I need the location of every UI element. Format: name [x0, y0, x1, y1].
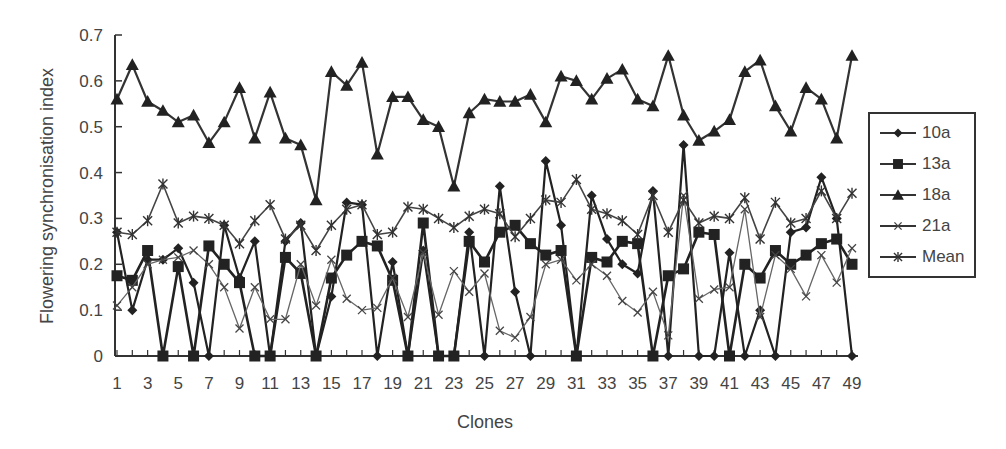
- data-point-10a: [709, 351, 719, 361]
- data-point-21a: [511, 334, 519, 342]
- data-point-18a: [677, 109, 690, 121]
- data-point-13a: [663, 270, 674, 281]
- data-point-18a: [830, 132, 843, 144]
- data-point-21a: [327, 256, 335, 264]
- data-point-13a: [219, 259, 230, 270]
- data-point-18a: [662, 49, 675, 61]
- data-point-10a: [786, 227, 796, 237]
- data-point-21a: [649, 288, 657, 296]
- data-point-21a: [236, 324, 244, 332]
- data-point-mean: [694, 218, 703, 229]
- data-point-10a: [556, 220, 566, 230]
- data-point-18a: [478, 93, 491, 105]
- x-tick-label: 41: [720, 374, 739, 393]
- data-point-13a: [647, 351, 658, 362]
- data-point-18a: [646, 100, 659, 112]
- data-point-13a: [448, 351, 459, 362]
- series-10a: [112, 140, 857, 361]
- data-point-mean: [266, 199, 275, 210]
- x-tick-label: 49: [843, 374, 862, 393]
- legend-item-10a: 10a: [878, 122, 973, 144]
- x-tick-label: 15: [322, 374, 341, 393]
- data-point-18a: [769, 100, 782, 112]
- data-point-13a: [602, 256, 613, 267]
- x-tick-label: 9: [235, 374, 244, 393]
- data-point-18a: [723, 113, 736, 125]
- data-point-13a: [418, 218, 429, 229]
- legend-item-21a: 21a: [878, 215, 973, 237]
- data-point-21a: [465, 288, 473, 296]
- data-point-21a: [618, 297, 626, 305]
- data-point-18a: [325, 65, 338, 77]
- data-point-18a: [754, 54, 767, 66]
- data-point-13a: [188, 351, 199, 362]
- data-point-mean: [848, 188, 857, 199]
- data-point-10a: [510, 287, 520, 297]
- legend-item-13a: 13a: [878, 153, 973, 175]
- data-point-13a: [326, 273, 337, 284]
- y-tick-label: 0.3: [79, 209, 103, 228]
- data-point-10a: [801, 223, 811, 233]
- data-point-18a: [279, 132, 292, 144]
- legend-label: 13a: [922, 154, 950, 174]
- data-point-13a: [357, 236, 368, 247]
- data-point-13a: [479, 256, 490, 267]
- data-point-13a: [801, 250, 812, 261]
- data-point-18a: [616, 63, 629, 75]
- data-point-13a: [510, 220, 521, 231]
- data-point-mean: [465, 211, 474, 222]
- x-tick-label: 17: [353, 374, 372, 393]
- x-tick-label: 33: [598, 374, 617, 393]
- legend-swatch-13a: [878, 153, 920, 175]
- data-point-mean: [572, 174, 581, 185]
- x-tick-label: 1: [112, 374, 121, 393]
- legend-swatch-18a: [878, 184, 920, 206]
- data-point-13a: [433, 351, 444, 362]
- x-tick-label: 39: [689, 374, 708, 393]
- data-point-13a: [464, 236, 475, 247]
- series-mean: [113, 174, 857, 256]
- data-point-18a: [356, 56, 369, 68]
- data-point-10a: [770, 351, 780, 361]
- x-tick-label: 11: [261, 374, 279, 393]
- data-point-21a: [817, 251, 825, 259]
- legend-label: Mean: [922, 247, 965, 267]
- data-point-21a: [220, 283, 228, 291]
- chart: 00.10.20.30.40.50.60.7135791113151719212…: [0, 0, 1006, 449]
- data-point-mean: [648, 190, 657, 201]
- data-point-10a: [617, 259, 627, 269]
- data-point-21a: [297, 260, 305, 268]
- y-tick-label: 0: [94, 347, 103, 366]
- legend-marker-10a: [894, 129, 903, 138]
- data-point-21a: [481, 269, 489, 277]
- data-point-10a: [663, 351, 673, 361]
- data-point-13a: [556, 245, 567, 256]
- x-tick-label: 25: [475, 374, 494, 393]
- data-point-mean: [250, 215, 259, 226]
- data-point-mean: [312, 245, 321, 256]
- data-point-13a: [847, 259, 858, 270]
- x-tick-label: 5: [174, 374, 183, 393]
- data-point-18a: [310, 194, 323, 206]
- data-point-mean: [756, 234, 765, 245]
- x-tick-label: 3: [143, 374, 152, 393]
- data-point-10a: [541, 156, 551, 166]
- data-point-mean: [633, 229, 642, 240]
- legend: 10a13a18a21aMean: [868, 112, 976, 278]
- data-point-13a: [540, 250, 551, 261]
- data-point-mean: [174, 218, 183, 229]
- data-point-13a: [372, 240, 383, 251]
- data-point-10a: [816, 172, 826, 182]
- data-point-13a: [142, 245, 153, 256]
- data-point-18a: [156, 104, 169, 116]
- data-point-18a: [432, 120, 445, 132]
- x-tick-label: 47: [812, 374, 831, 393]
- data-point-18a: [524, 88, 537, 100]
- x-tick-label: 27: [506, 374, 525, 393]
- y-tick-label: 0.2: [79, 255, 103, 274]
- data-point-mean: [587, 204, 596, 215]
- data-point-mean: [786, 218, 795, 229]
- data-point-10a: [388, 257, 398, 267]
- data-point-13a: [341, 250, 352, 261]
- data-point-21a: [833, 279, 841, 287]
